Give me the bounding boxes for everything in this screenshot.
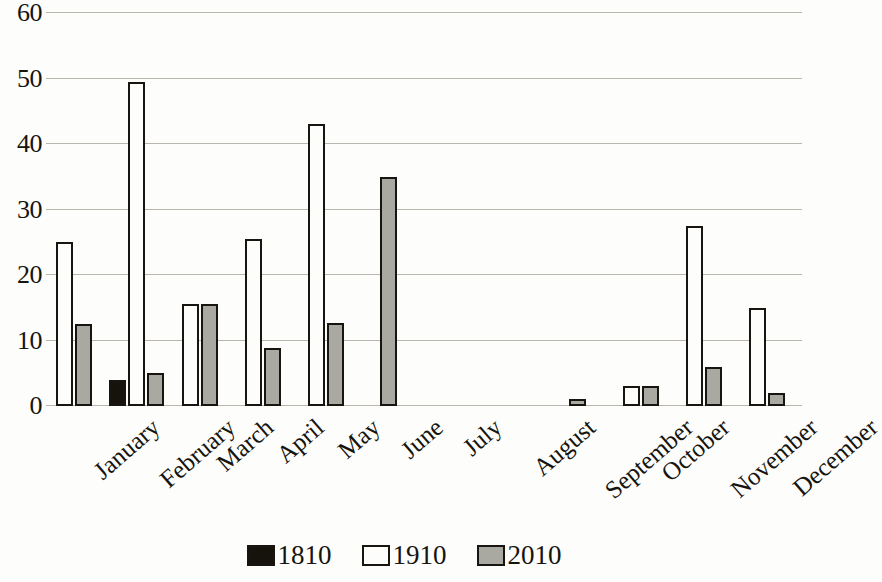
bar-march-1910 xyxy=(182,304,199,406)
bar-group-november xyxy=(686,13,722,406)
legend-swatch-1910 xyxy=(362,545,390,566)
bar-march-2010 xyxy=(201,304,218,406)
bar-group-june xyxy=(380,13,397,406)
bar-group-september xyxy=(569,13,586,406)
x-tick-label-may: May xyxy=(333,414,385,464)
bar-february-1910 xyxy=(128,82,145,406)
y-tick-label-0: 0 xyxy=(0,393,42,419)
bar-group-october xyxy=(623,13,659,406)
x-tick-label-july: July xyxy=(458,414,507,461)
plot-area xyxy=(46,13,802,406)
x-tick-label-june: June xyxy=(396,414,448,464)
bar-group-april xyxy=(245,13,281,406)
x-axis-tick-labels: JanuaryFebruaryMarchAprilMayJuneJulyAugu… xyxy=(46,406,802,516)
bar-april-1910 xyxy=(245,239,262,406)
bar-november-2010 xyxy=(705,367,722,406)
bar-group-december xyxy=(749,13,785,406)
y-tick-label-10: 10 xyxy=(0,328,42,354)
legend-item-2010[interactable]: 2010 xyxy=(477,542,562,569)
chart-legend: 181019102010 xyxy=(0,542,808,569)
bar-february-1810 xyxy=(109,380,126,406)
legend-swatch-2010 xyxy=(477,545,505,566)
bar-june-2010 xyxy=(380,177,397,406)
bar-april-2010 xyxy=(264,348,281,406)
bar-may-1910 xyxy=(308,124,325,406)
y-tick-label-30: 30 xyxy=(0,197,42,223)
legend-item-1810[interactable]: 1810 xyxy=(247,542,332,569)
y-tick-label-40: 40 xyxy=(0,131,42,157)
bar-january-2010 xyxy=(75,324,92,406)
bar-december-1910 xyxy=(749,308,766,406)
legend-label-2010: 2010 xyxy=(508,542,562,569)
x-tick-label-april: April xyxy=(271,414,328,468)
bar-group-january xyxy=(56,13,92,406)
bar-february-2010 xyxy=(147,373,164,406)
x-tick-label-august: August xyxy=(528,414,600,481)
y-tick-label-60: 60 xyxy=(0,0,42,26)
bar-november-1910 xyxy=(686,226,703,406)
legend-label-1910: 1910 xyxy=(393,542,447,569)
y-tick-label-50: 50 xyxy=(0,66,42,92)
bar-october-1910 xyxy=(623,386,640,406)
bar-group-may xyxy=(308,13,344,406)
bar-may-2010 xyxy=(327,323,344,406)
legend-item-1910[interactable]: 1910 xyxy=(362,542,447,569)
x-tick-label-january: January xyxy=(89,414,165,485)
bar-october-2010 xyxy=(642,386,659,406)
y-tick-label-20: 20 xyxy=(0,262,42,288)
bar-group-march xyxy=(182,13,218,406)
bar-december-2010 xyxy=(768,393,785,406)
bar-group-february xyxy=(109,13,164,406)
legend-label-1810: 1810 xyxy=(278,542,332,569)
bar-january-1910 xyxy=(56,242,73,406)
legend-swatch-1810 xyxy=(247,545,275,566)
